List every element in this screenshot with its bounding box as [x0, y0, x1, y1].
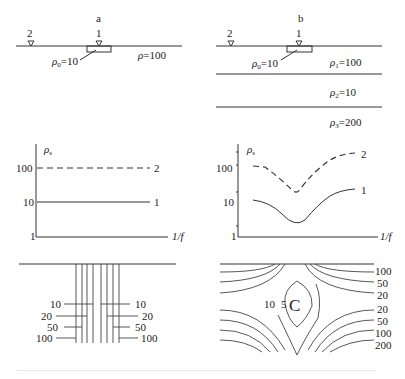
x-axis-label-b: 1/f: [380, 230, 394, 242]
contour-label-b-100-bottom: 100: [375, 327, 392, 339]
contour-label-b-50-bottom: 50: [377, 315, 389, 327]
tick-1-a: 1: [30, 230, 36, 242]
receiver-1-label-b: 1: [296, 27, 302, 39]
receiver-2-triangle-icon: [228, 41, 234, 46]
contour-label-b-200: 200: [375, 339, 392, 351]
receiver-2-label-a: 2: [27, 27, 33, 39]
tick-100-b: 100: [216, 162, 233, 174]
receiver-2-triangle-icon: [28, 41, 34, 46]
contour-label-b-50-top: 50: [377, 277, 389, 289]
panel-b-model: b 2 1 ρ0=10 ρ1=100 ρ2=10 ρ3=200: [216, 12, 382, 130]
chart-b: ρs 100 10 1 1/f 2 1: [216, 143, 394, 242]
chart-a: ρs 100 10 1 1/f 2 1: [16, 143, 186, 242]
body-label-b: ρ0=10: [251, 57, 278, 71]
lower-contours-b: [220, 310, 374, 352]
y-axis-label-b: ρs: [246, 143, 255, 157]
contour-map-b: 10 5 C 100 50 20 20 50 100 200: [220, 264, 392, 355]
series-2-label-b: 2: [361, 148, 367, 160]
series-2-curve-b: [253, 153, 355, 192]
receiver-1-label-a: 1: [96, 27, 102, 39]
inner-label-5: 5: [281, 298, 287, 310]
layer-2-label: ρ2=10: [329, 86, 356, 100]
tick-10-b: 10: [223, 196, 235, 208]
contour-label-right-10: 10: [135, 298, 147, 310]
vertical-contours-a: [76, 264, 119, 343]
figure: a 2 1 ρ0=10 ρ=100 b 2 1 ρ0=10 ρ1=100 ρ2=…: [0, 0, 405, 379]
panel-b-title: b: [298, 12, 304, 24]
panel-a-title: a: [96, 12, 101, 24]
receiver-1-triangle-icon: [96, 41, 102, 46]
host-label-a: ρ=100: [137, 49, 166, 61]
tick-100-a: 100: [16, 162, 33, 174]
series-1-label-b: 1: [361, 184, 367, 196]
receiver-2-label-b: 2: [227, 27, 233, 39]
y-axis-label-a: ρs: [43, 143, 52, 157]
contour-10-loop: [278, 284, 320, 355]
x-axis-label-a: 1/f: [172, 230, 186, 242]
conductor-center-label: C: [289, 296, 300, 315]
layer-3-label: ρ3=200: [329, 116, 362, 130]
contour-label-b-20-bottom: 20: [377, 303, 389, 315]
layer-1-label: ρ1=100: [329, 56, 362, 70]
faint-caption-strip: [16, 370, 376, 373]
contour-label-left-10: 10: [50, 298, 62, 310]
series-1-curve-b: [253, 189, 355, 223]
receiver-1-triangle-icon: [296, 41, 302, 46]
tick-10-a: 10: [23, 196, 35, 208]
contour-label-left-100: 100: [36, 332, 53, 344]
contour-label-b-20-top: 20: [377, 289, 389, 301]
contour-label-b-100-top: 100: [375, 265, 392, 277]
panel-a-model: a 2 1 ρ0=10 ρ=100: [16, 12, 182, 69]
conductive-body-b: [287, 46, 312, 52]
contour-label-right-100: 100: [141, 332, 158, 344]
upper-contours-b: [220, 264, 374, 293]
body-label-a: ρ0=10: [51, 55, 78, 69]
inner-label-10: 10: [264, 298, 276, 310]
tick-1-b: 1: [231, 230, 237, 242]
contour-map-a: 10 20 50 100 10 20 50 100: [19, 264, 176, 344]
series-1-label-a: 1: [154, 196, 160, 208]
series-2-label-a: 2: [154, 162, 160, 174]
